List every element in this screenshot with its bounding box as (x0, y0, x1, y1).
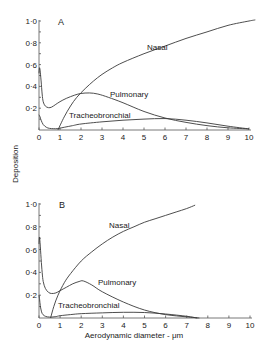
x-tick-label: 8 (205, 133, 210, 142)
x-tick-label: 4 (121, 321, 126, 330)
x-tick-label: 7 (184, 321, 189, 330)
x-tick-label: 1 (58, 133, 63, 142)
y-tick-label: 0·4 (25, 268, 37, 277)
x-tick-label: 2 (79, 133, 84, 142)
x-tick-label: 7 (184, 133, 189, 142)
panel-a-tracheobronchial-label: Tracheobronchial (69, 111, 131, 120)
panel-a-label: A (58, 17, 64, 27)
x-tick-label: 2 (79, 321, 84, 330)
y-axis-title: Deposition (11, 145, 20, 183)
y-tick-label: 0·2 (25, 104, 37, 113)
x-tick-label: 5 (142, 133, 147, 142)
panel-b-pulmonary-label: Pulmonary (98, 278, 136, 287)
x-axis-title: Aerodynamic diameter - μm (85, 331, 184, 340)
x-tick-label: 8 (206, 321, 211, 330)
x-tick-label: 3 (100, 321, 105, 330)
x-tick-label: 0 (37, 321, 42, 330)
y-tick-label: 0·2 (25, 291, 37, 300)
panel-a-nasal-label: Nasal (147, 43, 168, 52)
y-tick-label: 1·0 (25, 17, 37, 26)
panel-b-nasal-label: Nasal (109, 221, 130, 230)
y-tick-label: 1·0 (25, 200, 37, 209)
deposition-figure: 0123456789100·20·40·60·81·0 A Nasal Pulm… (0, 0, 267, 349)
x-tick-label: 4 (121, 133, 126, 142)
x-tick-label: 9 (226, 133, 231, 142)
y-tick-label: 0·6 (25, 246, 37, 255)
y-tick-label: 0·4 (25, 82, 37, 91)
x-tick-label: 9 (227, 321, 232, 330)
panel-b-label: B (59, 200, 65, 210)
panel-a-chart: 0123456789100·20·40·60·81·0 A Nasal Pulm… (25, 17, 255, 142)
panel-a-axes: 0123456789100·20·40·60·81·0 (25, 17, 254, 142)
x-tick-label: 0 (37, 133, 42, 142)
y-tick-label: 0·8 (25, 39, 37, 48)
panel-b-axes: 0123456789100·20·40·60·81·0 (25, 200, 255, 330)
x-tick-label: 5 (142, 321, 147, 330)
x-tick-label: 3 (100, 133, 105, 142)
x-tick-label: 1 (58, 321, 63, 330)
panel-b-tracheobronchial-label: Tracheobronchial (58, 301, 120, 310)
panel-a-pulmonary-label: Pulmonary (110, 90, 148, 99)
y-tick-label: 0·6 (25, 61, 37, 70)
x-tick-label: 10 (246, 321, 255, 330)
x-tick-label: 6 (163, 133, 168, 142)
x-tick-label: 6 (163, 321, 168, 330)
panel-b-chart: 0123456789100·20·40·60·81·0 B Nasal Pulm… (25, 200, 255, 330)
x-tick-label: 10 (245, 133, 254, 142)
y-tick-label: 0·8 (25, 223, 37, 232)
